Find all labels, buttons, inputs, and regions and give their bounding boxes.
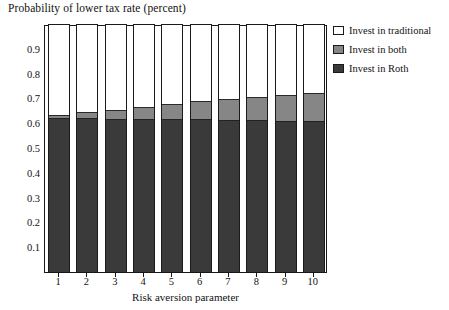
bar-segment-roth[interactable] bbox=[304, 121, 324, 272]
bar-segment-both[interactable] bbox=[134, 107, 154, 119]
chart-legend: Invest in traditionalInvest in bothInves… bbox=[333, 22, 449, 79]
x-tick-label: 7 bbox=[213, 276, 243, 288]
bar-segment-both[interactable] bbox=[219, 99, 239, 120]
bar-stack[interactable] bbox=[76, 24, 98, 272]
bar-segment-roth[interactable] bbox=[247, 120, 267, 272]
bar-segment-both[interactable] bbox=[191, 101, 211, 119]
bar-stack[interactable] bbox=[218, 24, 240, 272]
plot-area bbox=[44, 25, 327, 273]
bar-segment-both[interactable] bbox=[106, 110, 126, 119]
bar-stack[interactable] bbox=[303, 24, 325, 272]
bar-segment-traditional[interactable] bbox=[106, 24, 126, 110]
x-tick-label: 8 bbox=[241, 276, 271, 288]
x-tick-label: 2 bbox=[71, 276, 101, 288]
bar-segment-traditional[interactable] bbox=[276, 24, 296, 95]
bar-segment-roth[interactable] bbox=[49, 118, 69, 272]
bar-segment-traditional[interactable] bbox=[191, 24, 211, 101]
legend-swatch-icon bbox=[333, 64, 344, 73]
bar-segment-roth[interactable] bbox=[276, 121, 296, 272]
bar-segment-roth[interactable] bbox=[106, 119, 126, 272]
legend-label: Invest in traditional bbox=[349, 25, 431, 36]
x-tick-label: 3 bbox=[100, 276, 130, 288]
bar-segment-traditional[interactable] bbox=[304, 24, 324, 93]
x-tick-label: 9 bbox=[270, 276, 300, 288]
bar-stack[interactable] bbox=[190, 24, 212, 272]
chart-container: Probability of lower tax rate (percent) … bbox=[0, 0, 449, 310]
x-tick-label: 6 bbox=[185, 276, 215, 288]
bar-segment-both[interactable] bbox=[162, 104, 182, 119]
x-tick-label: 5 bbox=[156, 276, 186, 288]
bar-stack[interactable] bbox=[133, 24, 155, 272]
bar-segment-roth[interactable] bbox=[134, 119, 154, 272]
bar-segment-both[interactable] bbox=[276, 95, 296, 121]
bar-segment-traditional[interactable] bbox=[77, 24, 97, 112]
x-tick-label: 4 bbox=[128, 276, 158, 288]
x-tick-label: 1 bbox=[43, 276, 73, 288]
x-tick-label: 10 bbox=[298, 276, 328, 288]
bar-segment-roth[interactable] bbox=[162, 119, 182, 272]
bar-segment-traditional[interactable] bbox=[134, 24, 154, 107]
legend-item[interactable]: Invest in traditional bbox=[333, 22, 449, 38]
chart-title: Probability of lower tax rate (percent) bbox=[8, 2, 186, 14]
bar-segment-traditional[interactable] bbox=[49, 24, 69, 115]
bar-stack[interactable] bbox=[48, 24, 70, 272]
legend-item[interactable]: Invest in Roth bbox=[333, 60, 449, 76]
legend-label: Invest in Roth bbox=[349, 63, 409, 74]
legend-label: Invest in both bbox=[349, 44, 407, 55]
bar-segment-traditional[interactable] bbox=[162, 24, 182, 104]
bar-stack[interactable] bbox=[275, 24, 297, 272]
bar-segment-both[interactable] bbox=[304, 93, 324, 122]
bar-segment-both[interactable] bbox=[247, 97, 267, 121]
bar-segment-roth[interactable] bbox=[219, 120, 239, 272]
bar-stack[interactable] bbox=[246, 24, 268, 272]
x-axis-labels: 12345678910 bbox=[44, 276, 327, 292]
x-axis-title: Risk aversion parameter bbox=[44, 291, 327, 303]
bar-stack[interactable] bbox=[161, 24, 183, 272]
bar-stack[interactable] bbox=[105, 24, 127, 272]
bar-segment-traditional[interactable] bbox=[247, 24, 267, 97]
bar-segment-roth[interactable] bbox=[77, 118, 97, 272]
plot-inner bbox=[45, 26, 326, 272]
bar-segment-traditional[interactable] bbox=[219, 24, 239, 99]
legend-swatch-icon bbox=[333, 45, 344, 54]
legend-swatch-icon bbox=[333, 26, 344, 35]
legend-item[interactable]: Invest in both bbox=[333, 41, 449, 57]
bar-segment-roth[interactable] bbox=[191, 119, 211, 272]
